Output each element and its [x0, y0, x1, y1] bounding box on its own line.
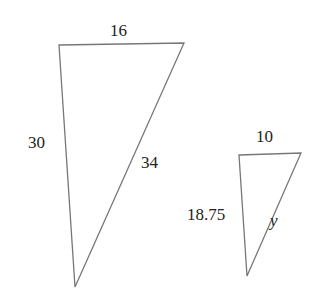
- triangles-canvas: [0, 0, 317, 302]
- large-triangle: [59, 43, 184, 287]
- small-left-label: 18.75: [187, 206, 225, 223]
- small-top-label: 10: [256, 128, 273, 145]
- large-left-label: 30: [28, 134, 45, 151]
- large-hyp-label: 34: [141, 154, 158, 171]
- small-hyp-label: y: [270, 212, 278, 229]
- similar-triangles-diagram: 16 30 34 10 18.75 y: [0, 0, 317, 302]
- large-top-label: 16: [110, 22, 127, 39]
